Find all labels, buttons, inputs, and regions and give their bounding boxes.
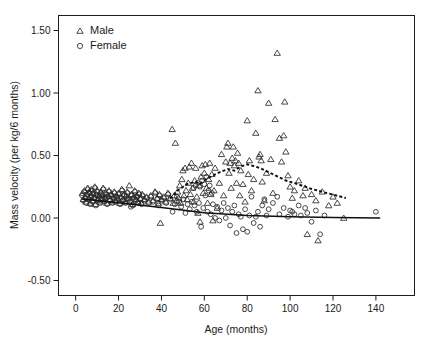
x-tick-label-20: 20: [113, 303, 125, 314]
x-axis-title: Age (months): [204, 323, 267, 335]
y-tick-label-0.00: 0.00: [31, 213, 51, 224]
y-axis-title: Mass velocity (per kg/6 months): [8, 81, 20, 229]
x-tick-label-80: 80: [242, 303, 254, 314]
x-tick-label-0: 0: [73, 303, 79, 314]
x-tick-label-60: 60: [199, 303, 211, 314]
x-tick-label-140: 140: [368, 303, 385, 314]
legend-label-female: Female: [90, 39, 127, 51]
y-tick-label-0.50: 0.50: [31, 150, 51, 161]
x-tick-label-100: 100: [282, 303, 299, 314]
legend-label-male: Male: [90, 24, 114, 36]
y-tick-label-1.00: 1.00: [31, 88, 51, 99]
x-tick-label-120: 120: [325, 303, 342, 314]
x-tick-label-40: 40: [156, 303, 168, 314]
y-tick-label--0.50: -0.50: [28, 275, 51, 286]
scatter-plot-svg: 020406080100120140 -0.500.000.501.001.50…: [0, 0, 423, 344]
chart-figure: 020406080100120140 -0.500.000.501.001.50…: [0, 0, 423, 344]
y-tick-label-1.50: 1.50: [31, 25, 51, 36]
